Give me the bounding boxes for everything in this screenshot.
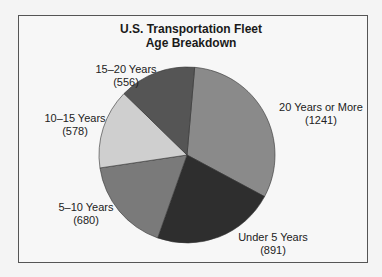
label-value: (556) — [88, 76, 164, 89]
label-text: 10–15 Years — [40, 112, 110, 125]
label-under-5-years: Under 5 Years (891) — [228, 231, 318, 257]
label-5-10-years: 5–10 Years (680) — [51, 201, 121, 227]
label-10-15-years: 10–15 Years (578) — [40, 112, 110, 138]
label-20-plus-years: 20 Years or More (1241) — [276, 101, 366, 127]
label-text: 5–10 Years — [51, 201, 121, 214]
label-value: (680) — [51, 214, 121, 227]
label-value: (891) — [228, 244, 318, 257]
label-text: 20 Years or More — [276, 101, 366, 114]
label-value: (1241) — [276, 114, 366, 127]
label-text: Under 5 Years — [228, 231, 318, 244]
label-value: (578) — [40, 125, 110, 138]
label-text: 15–20 Years — [88, 63, 164, 76]
label-15-20-years: 15–20 Years (556) — [88, 63, 164, 89]
pie-chart — [0, 0, 382, 277]
